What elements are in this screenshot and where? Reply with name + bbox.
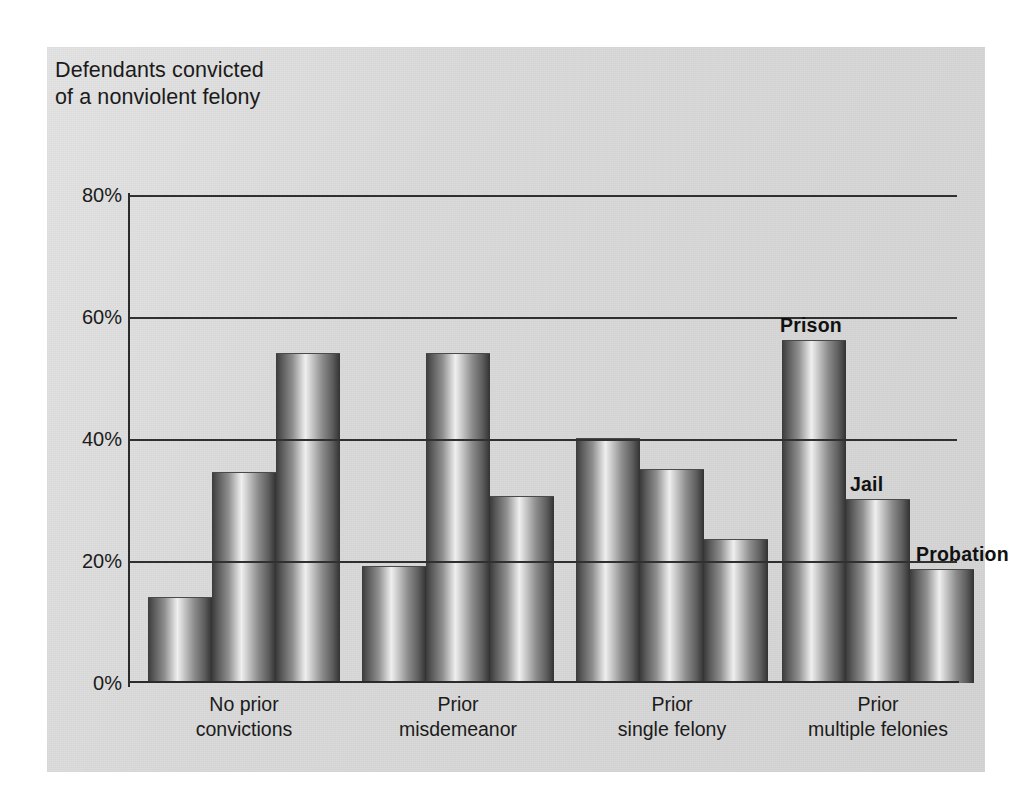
bar-jail xyxy=(846,499,910,683)
x-axis-category-labels: No prior convictionsPrior misdemeanorPri… xyxy=(130,692,957,762)
bar-probation xyxy=(276,353,340,683)
y-axis-tick-label: 60% xyxy=(82,306,122,329)
bar-prison xyxy=(148,597,212,683)
bar-prison xyxy=(782,340,846,683)
category-label: Prior multiple felonies xyxy=(737,692,1019,742)
series-label-probation: Probation xyxy=(916,543,1009,566)
bar-probation xyxy=(490,496,554,683)
y-axis-line xyxy=(128,193,130,687)
gridline xyxy=(130,439,957,441)
plot-area xyxy=(130,195,957,683)
gridline xyxy=(130,195,957,197)
bar-jail xyxy=(640,469,704,684)
x-axis-line xyxy=(128,681,959,683)
bar-jail xyxy=(212,472,276,683)
bar-probation xyxy=(910,569,974,683)
series-label-jail: Jail xyxy=(850,473,883,496)
y-axis-tick-label: 80% xyxy=(82,184,122,207)
y-axis-tick-label: 40% xyxy=(82,428,122,451)
y-axis-tick-labels: 0%20%40%60%80% xyxy=(48,0,122,809)
bar-jail xyxy=(426,353,490,683)
y-axis-tick-label: 20% xyxy=(82,550,122,573)
bar-prison xyxy=(362,566,426,683)
gridline xyxy=(130,561,957,563)
series-label-prison: Prison xyxy=(780,314,842,337)
